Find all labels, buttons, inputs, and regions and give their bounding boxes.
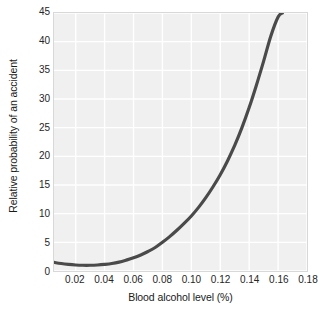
x-axis-label: Blood alcohol level (%) (53, 291, 308, 303)
y-tick-label: 20 (4, 151, 50, 161)
data-curve (54, 13, 307, 271)
x-tick-label: 0.18 (288, 274, 327, 286)
y-tick-label: 45 (4, 7, 50, 17)
chart-figure: Relative probability of an accident 0510… (0, 0, 327, 313)
plot-area (53, 12, 308, 272)
y-tick-label: 30 (4, 94, 50, 104)
y-tick-label: 40 (4, 36, 50, 46)
x-axis-tick-labels: 0.020.040.060.080.100.120.140.160.18 (0, 274, 327, 288)
y-tick-label: 15 (4, 180, 50, 190)
y-tick-label: 10 (4, 209, 50, 219)
y-tick-label: 5 (4, 238, 50, 248)
y-axis-tick-labels: 051015202530354045 (0, 0, 50, 313)
y-tick-label: 25 (4, 123, 50, 133)
y-tick-label: 35 (4, 65, 50, 75)
